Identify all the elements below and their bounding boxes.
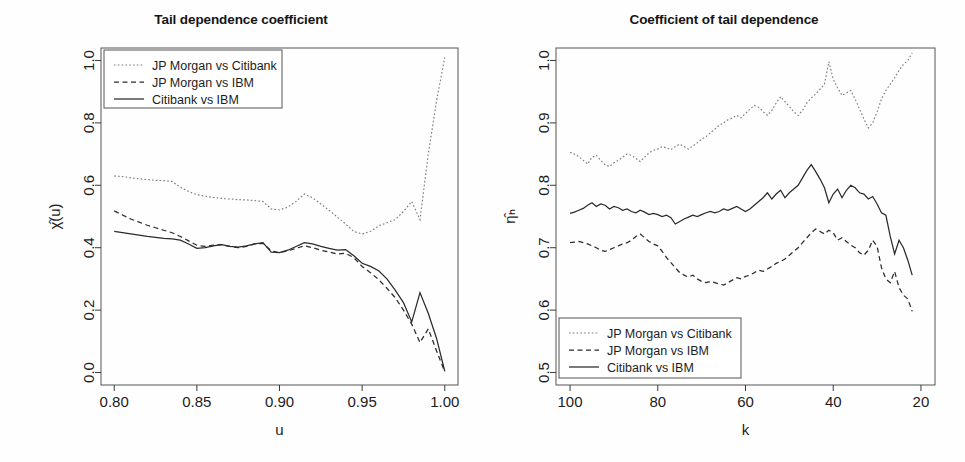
plot-area-left: 0.800.850.900.951.000.00.20.40.60.81.0uχ… bbox=[0, 0, 482, 462]
series-line-2 bbox=[114, 231, 445, 371]
y-tick-label: 0.8 bbox=[80, 112, 97, 133]
y-tick-label: 1.0 bbox=[80, 50, 97, 71]
x-tick-label: 60 bbox=[737, 393, 754, 410]
series-line-1 bbox=[570, 229, 912, 311]
y-axis-title: η̂ₕ bbox=[501, 209, 518, 223]
series-line-2 bbox=[570, 165, 912, 275]
panel-tail-dependence-coefficient: Tail dependence coefficient 0.800.850.90… bbox=[0, 0, 482, 462]
legend: JP Morgan vs CitibankJP Morgan vs IBMCit… bbox=[104, 50, 282, 108]
x-tick-label: 0.90 bbox=[265, 393, 294, 410]
y-axis-title: χ̂(u) bbox=[46, 203, 63, 229]
y-tick-label: 0.8 bbox=[535, 175, 552, 196]
y-tick-label: 0.0 bbox=[80, 362, 97, 383]
y-tick-label: 0.6 bbox=[80, 175, 97, 196]
panel-coefficient-of-tail-dependence: Coefficient of tail dependence 100806040… bbox=[483, 0, 965, 462]
legend-label-1: JP Morgan vs IBM bbox=[152, 76, 254, 90]
x-tick-label: 40 bbox=[825, 393, 842, 410]
x-tick-label: 1.00 bbox=[430, 393, 459, 410]
y-tick-label: 0.2 bbox=[80, 300, 97, 321]
y-tick-label: 0.4 bbox=[80, 237, 97, 258]
plot-area-right: 100806040200.50.60.70.80.91.0kη̂ₕJP Morg… bbox=[483, 0, 965, 462]
x-tick-label: 0.85 bbox=[182, 393, 211, 410]
x-tick-label: 0.95 bbox=[348, 393, 377, 410]
y-tick-label: 1.0 bbox=[535, 50, 552, 71]
legend-label-0: JP Morgan vs Citibank bbox=[607, 327, 733, 341]
y-tick-label: 0.9 bbox=[535, 112, 552, 133]
series-line-0 bbox=[570, 53, 912, 167]
legend-label-1: JP Morgan vs IBM bbox=[607, 344, 709, 358]
figure-root: Tail dependence coefficient 0.800.850.90… bbox=[0, 0, 965, 462]
y-tick-label: 0.7 bbox=[535, 237, 552, 258]
x-tick-label: 0.80 bbox=[100, 393, 129, 410]
y-tick-label: 0.5 bbox=[535, 362, 552, 383]
y-tick-label: 0.6 bbox=[535, 300, 552, 321]
series-line-1 bbox=[114, 211, 445, 372]
x-tick-label: 20 bbox=[913, 393, 930, 410]
x-axis-title: u bbox=[275, 421, 283, 438]
legend-label-2: Citibank vs IBM bbox=[152, 93, 239, 107]
x-tick-label: 80 bbox=[649, 393, 666, 410]
legend-label-2: Citibank vs IBM bbox=[607, 361, 694, 375]
legend: JP Morgan vs CitibankJP Morgan vs IBMCit… bbox=[559, 318, 741, 378]
legend-label-0: JP Morgan vs Citibank bbox=[152, 59, 278, 73]
x-axis-title: k bbox=[742, 421, 750, 438]
x-tick-label: 100 bbox=[558, 393, 583, 410]
